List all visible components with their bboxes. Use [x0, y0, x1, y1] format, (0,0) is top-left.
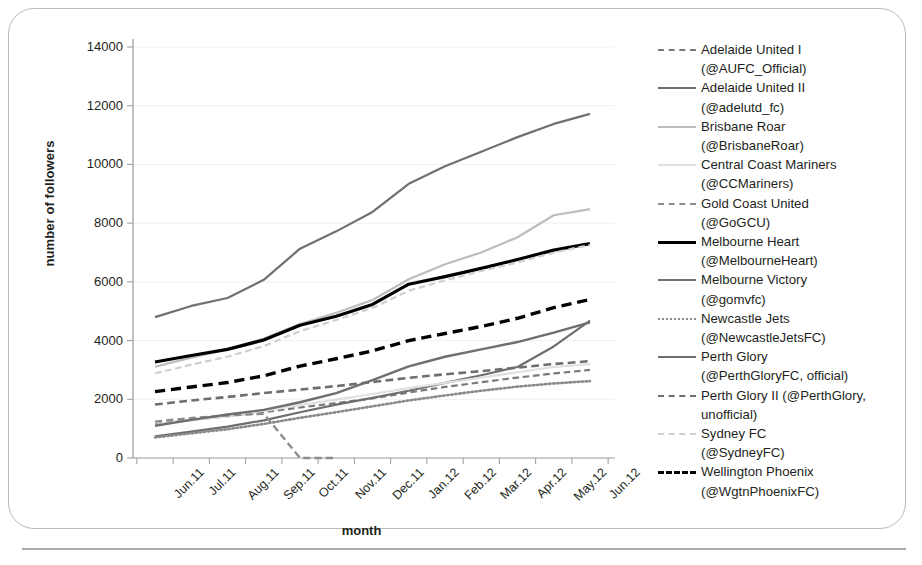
series-line-8	[155, 322, 590, 425]
legend-item: Adelaide United II(@adelutd_fc)	[658, 78, 916, 116]
legend-line-icon	[658, 270, 696, 289]
legend-label: Newcastle Jets(@NewcastleJetsFC)	[701, 309, 916, 347]
legend-line-icon	[658, 347, 696, 366]
legend-item: Gold Coast United(@GoGCU)	[658, 194, 916, 232]
y-tick-label: 6000	[49, 275, 123, 288]
legend-label-handle: (@SydneyFC)	[701, 443, 916, 462]
legend-label-handle: (@GoGCU)	[701, 213, 916, 232]
legend-label-handle: (@BrisbaneRoar)	[701, 136, 916, 155]
legend-label: Perth Glory II (@PerthGlory,unofficial)	[701, 386, 916, 424]
y-tick-label: 2000	[49, 392, 123, 405]
legend-label: Gold Coast United(@GoGCU)	[701, 194, 916, 232]
legend-line-icon	[658, 232, 696, 251]
x-axis-title: month	[133, 523, 590, 538]
y-tick-label: 4000	[49, 334, 123, 347]
legend-item: Central Coast Mariners(@CCMariners)	[658, 155, 916, 193]
y-tick-label: 8000	[49, 216, 123, 229]
series-line-2	[155, 209, 590, 367]
legend-item: Sydney FC(@SydneyFC)	[658, 424, 916, 462]
legend-label-name: Wellington Phoenix	[701, 462, 916, 481]
chart-legend: Adelaide United I(@AUFC_Official)Adelaid…	[658, 40, 916, 501]
legend-label-handle: (@NewcastleJetsFC)	[701, 328, 916, 347]
legend-line-icon	[658, 40, 696, 59]
legend-label: Brisbane Roar(@BrisbaneRoar)	[701, 117, 916, 155]
legend-label-name: Adelaide United I	[701, 40, 916, 59]
legend-label-handle: (@PerthGloryFC, official)	[701, 366, 916, 385]
legend-item: Melbourne Heart(@MelbourneHeart)	[658, 232, 916, 270]
legend-line-icon	[658, 309, 696, 328]
legend-label: Adelaide United I(@AUFC_Official)	[701, 40, 916, 78]
legend-line-icon	[658, 462, 696, 481]
legend-label-name: Melbourne Victory	[701, 270, 916, 289]
legend-label-handle: (@WgtnPhoenixFC)	[701, 482, 916, 501]
legend-label-handle: (@gomvfc)	[701, 290, 916, 309]
legend-label-name: Newcastle Jets	[701, 309, 916, 328]
legend-label-name: Perth Glory	[701, 347, 916, 366]
legend-item: Brisbane Roar(@BrisbaneRoar)	[658, 117, 916, 155]
series-line-6	[155, 114, 590, 317]
legend-label-name: Central Coast Mariners	[701, 155, 916, 174]
legend-label: Central Coast Mariners(@CCMariners)	[701, 155, 916, 193]
y-tick-label: 10000	[49, 157, 123, 170]
legend-label: Wellington Phoenix(@WgtnPhoenixFC)	[701, 462, 916, 500]
legend-label-name: Sydney FC	[701, 424, 916, 443]
legend-label-name: Melbourne Heart	[701, 232, 916, 251]
legend-line-icon	[658, 194, 696, 213]
legend-label-name: Adelaide United II	[701, 78, 916, 97]
legend-label-handle: (@AUFC_Official)	[701, 59, 916, 78]
legend-label: Sydney FC(@SydneyFC)	[701, 424, 916, 462]
legend-item: Perth Glory(@PerthGloryFC, official)	[658, 347, 916, 385]
legend-label-handle: unofficial)	[701, 405, 916, 424]
legend-label-name: Perth Glory II (@PerthGlory,	[701, 386, 916, 405]
legend-line-icon	[658, 117, 696, 136]
series-line-1	[155, 321, 590, 437]
legend-label: Adelaide United II(@adelutd_fc)	[701, 78, 916, 116]
legend-line-icon	[658, 78, 696, 97]
series-line-7	[155, 381, 590, 437]
series-line-10	[155, 245, 590, 374]
legend-line-icon	[658, 155, 696, 174]
legend-line-icon	[658, 424, 696, 443]
y-tick-label: 14000	[49, 40, 123, 53]
legend-label-handle: (@adelutd_fc)	[701, 98, 916, 117]
legend-item: Newcastle Jets(@NewcastleJetsFC)	[658, 309, 916, 347]
legend-item: Perth Glory II (@PerthGlory,unofficial)	[658, 386, 916, 424]
legend-item: Melbourne Victory(@gomvfc)	[658, 270, 916, 308]
legend-label-handle: (@MelbourneHeart)	[701, 251, 916, 270]
legend-line-icon	[658, 386, 696, 405]
legend-label: Melbourne Victory(@gomvfc)	[701, 270, 916, 308]
legend-label-name: Gold Coast United	[701, 194, 916, 213]
legend-item: Adelaide United I(@AUFC_Official)	[658, 40, 916, 78]
legend-label-handle: (@CCMariners)	[701, 174, 916, 193]
legend-label: Perth Glory(@PerthGloryFC, official)	[701, 347, 916, 385]
y-tick-label: 0	[49, 451, 123, 464]
y-tick-label: 12000	[49, 99, 123, 112]
legend-label-name: Brisbane Roar	[701, 117, 916, 136]
legend-label: Melbourne Heart(@MelbourneHeart)	[701, 232, 916, 270]
y-axis-title: number of followers	[42, 109, 57, 299]
legend-item: Wellington Phoenix(@WgtnPhoenixFC)	[658, 462, 916, 500]
